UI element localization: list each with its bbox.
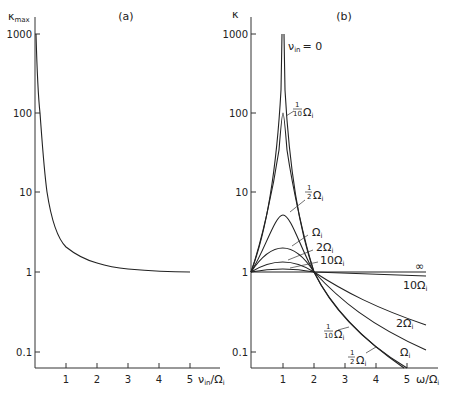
svg-text:3: 3 — [342, 374, 348, 385]
panel-a-ylabel: κmax — [8, 10, 30, 24]
svg-text:100: 100 — [229, 108, 248, 119]
panel-a-curve — [36, 34, 190, 272]
label-tenth-omega-lower: Ωi — [334, 328, 344, 342]
svg-text:0.1: 0.1 — [16, 347, 32, 358]
svg-text:1: 1 — [326, 323, 330, 331]
svg-text:1: 1 — [295, 101, 299, 109]
svg-text:1: 1 — [350, 349, 354, 357]
panel-b-xlabel: ω/Ωi — [416, 373, 439, 387]
svg-text:2: 2 — [311, 374, 317, 385]
svg-text:10: 10 — [324, 332, 333, 340]
panel-a-xlabel: νin/Ωi — [198, 373, 225, 387]
panel-b-labels: νin= 0 1 10 Ωi 1 2 Ωi Ωi 2Ωi 10Ωi ∞ 10Ωi… — [286, 40, 427, 368]
curve-half-omega — [251, 215, 407, 368]
svg-text:100: 100 — [13, 108, 32, 119]
panel-a: (a) κmax 1000 100 10 1 0.1 1 2 3 — [7, 10, 225, 387]
svg-text:1: 1 — [280, 374, 286, 385]
panel-b-title: (b) — [336, 10, 352, 23]
label-tenth-omega: Ωi — [303, 106, 313, 120]
svg-text:5: 5 — [187, 374, 193, 385]
panel-b: (b) κ 1000 100 10 1 0.1 1 2 3 4 5 — [223, 8, 440, 387]
svg-text:1: 1 — [242, 267, 248, 278]
label-inf: ∞ — [415, 260, 424, 273]
panel-b-ylabel: κ — [232, 8, 239, 21]
label-2omega: 2Ωi — [316, 241, 333, 255]
svg-text:10: 10 — [19, 187, 32, 198]
svg-text:4: 4 — [373, 374, 379, 385]
svg-text:10: 10 — [235, 187, 248, 198]
label-nu0: νin= 0 — [288, 40, 322, 54]
svg-text:1000: 1000 — [7, 29, 32, 40]
svg-text:0.1: 0.1 — [232, 347, 248, 358]
svg-text:1: 1 — [26, 267, 32, 278]
svg-text:2: 2 — [350, 358, 354, 366]
svg-text:1: 1 — [63, 374, 69, 385]
label-omega: Ωi — [312, 226, 322, 240]
label-half-omega-lower: Ωi — [356, 354, 366, 368]
label-2omega-right: 2Ωi — [396, 317, 413, 331]
svg-text:2: 2 — [94, 374, 100, 385]
svg-text:5: 5 — [404, 374, 410, 385]
label-omega-right: Ωi — [400, 346, 410, 360]
svg-text:1000: 1000 — [223, 29, 248, 40]
svg-text:10: 10 — [293, 110, 302, 118]
svg-text:2: 2 — [307, 193, 311, 201]
svg-text:4: 4 — [156, 374, 162, 385]
panel-a-x-ticks: 1 2 3 4 5 — [63, 363, 193, 385]
label-half-omega: Ωi — [313, 189, 323, 203]
svg-text:1: 1 — [307, 184, 311, 192]
figure: (a) κmax 1000 100 10 1 0.1 1 2 3 — [0, 0, 456, 400]
label-10omega-right: 10Ωi — [403, 279, 427, 293]
svg-text:3: 3 — [125, 374, 131, 385]
label-10omega: 10Ωi — [320, 254, 344, 268]
panel-a-title: (a) — [118, 10, 133, 23]
panel-b-x-ticks: 1 2 3 4 5 — [280, 363, 410, 385]
